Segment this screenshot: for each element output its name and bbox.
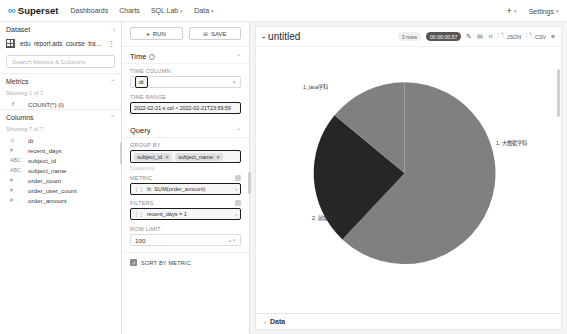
chevron-right-icon[interactable]: › <box>235 211 237 217</box>
group-by-tag-label: subject_id <box>137 154 162 160</box>
chevron-up-icon: ⌃ <box>110 78 115 85</box>
edit-properties-button[interactable]: ✎ <box>466 33 472 41</box>
nav-item-data[interactable]: Data ▾ <box>194 7 214 14</box>
row-limit-input[interactable]: 100 ▴ ▾ <box>130 234 241 246</box>
chevron-down-icon: ▾ <box>233 79 236 85</box>
columns-section-header[interactable]: Columns ⌃ <box>0 109 121 124</box>
group-by-tag-subject-id[interactable]: subject_id ✕ <box>134 153 172 161</box>
data-panel-collapsed[interactable]: › Data <box>256 313 561 329</box>
nav-item-data-label: Data <box>194 7 209 14</box>
new-item-button[interactable]: + ▾ <box>506 7 516 16</box>
chevron-down-icon: ▾ <box>514 8 517 14</box>
chart-title[interactable]: - untitled <box>262 31 300 42</box>
column-item[interactable]: ◷ dt <box>0 135 121 145</box>
envelope-icon: ✉ <box>477 33 483 41</box>
metric-label: METRIC <box>130 175 152 181</box>
column-item[interactable]: # order_amount <box>0 195 121 205</box>
column-type-icon: # <box>10 187 23 193</box>
filters-settings-icon[interactable] <box>235 200 241 206</box>
query-section-header[interactable]: Query ⌃ <box>122 121 249 138</box>
nav-item-dashboards[interactable]: Dashboards <box>71 7 109 14</box>
time-section-header[interactable]: Time i ⌃ <box>122 47 249 64</box>
sort-by-metric-row[interactable]: ✓ SORT BY METRIC <box>122 252 249 270</box>
filters-label: FILTERS <box>130 200 154 206</box>
drag-handle-icon[interactable]: ⋮⋮ <box>134 186 144 192</box>
metric-item[interactable]: f COUNT(*) (l) <box>0 99 121 109</box>
search-metrics-columns-input[interactable]: Search Metrics & Columns <box>6 55 115 68</box>
top-navbar: ∞ Superset Dashboards Charts SQL Lab ▾ D… <box>0 0 567 22</box>
column-name: subject_name <box>28 167 67 174</box>
drag-handle-icon[interactable]: ⋮⋮ <box>134 211 144 217</box>
pie-label-0: 1, 大数据学科 <box>496 139 527 146</box>
group-by-tag-label: subject_name <box>178 154 213 160</box>
chart-scrollbar[interactable] <box>557 69 560 117</box>
run-button-label: RUN <box>153 31 166 37</box>
sort-by-metric-label: SORT BY METRIC <box>141 260 191 266</box>
metric-label-row: METRIC <box>130 175 241 181</box>
column-item[interactable]: ABC subject_name <box>0 165 121 175</box>
chart-header: - untitled 3 rows 00:00:00.57 ✎ ✉ ‹› <box>256 27 561 47</box>
dataset-menu-icon[interactable]: ⋮ <box>108 41 115 47</box>
time-column-select[interactable]: dt ▾ <box>130 76 241 88</box>
time-title-text: Time <box>130 52 146 61</box>
save-button[interactable]: ⊞ SAVE <box>189 27 242 40</box>
metric-control[interactable]: ⋮⋮ fx SUM(order_amount) › <box>130 183 241 195</box>
dataset-selector[interactable]: edu_report.ads_course_trad... ⋮ <box>0 36 121 52</box>
nav-item-sql-lab[interactable]: SQL Lab ▾ <box>151 7 183 14</box>
embed-code-button[interactable]: ‹› <box>488 33 492 40</box>
more-menu-button[interactable]: ≡ <box>551 33 555 40</box>
column-item[interactable]: # order_count <box>0 175 121 185</box>
time-column-label: TIME COLUMN <box>130 68 241 74</box>
dataset-name: edu_report.ads_course_trad... <box>20 40 103 47</box>
download-csv-button[interactable]: 🗋 .CSV <box>526 31 546 42</box>
email-button[interactable]: ✉ <box>477 33 483 41</box>
dataset-panel-header: Dataset ⊣ <box>0 22 121 36</box>
column-type-icon: ABC <box>10 167 23 173</box>
row-limit-field: ROW LIMIT 100 ▴ ▾ <box>122 222 249 248</box>
column-type-icon: # <box>10 197 23 203</box>
nav-item-charts[interactable]: Charts <box>119 7 140 14</box>
table-icon <box>6 39 15 48</box>
filters-field: FILTERS ⋮⋮ recent_days = 1 › <box>122 197 249 222</box>
metrics-section-header[interactable]: Metrics ⌃ <box>0 73 121 88</box>
filters-control[interactable]: ⋮⋮ recent_days = 1 › <box>130 208 241 220</box>
close-icon[interactable]: ✕ <box>165 154 169 160</box>
play-icon: ▸ <box>147 31 150 37</box>
chevron-right-icon[interactable]: › <box>235 186 237 192</box>
metric-name: COUNT(*) (l) <box>28 101 64 108</box>
stepper-icons[interactable]: ▴ ▾ <box>229 238 236 243</box>
column-name: order_amount <box>28 197 67 204</box>
function-icon: fx <box>147 186 151 192</box>
data-panel-label: Data <box>270 318 285 325</box>
metric-settings-icon[interactable] <box>235 175 241 181</box>
column-item[interactable]: # order_user_count <box>0 185 121 195</box>
time-range-control[interactable]: 2022-02-21 ≤ col < 2022-02-21T23:59:59 <box>130 102 241 114</box>
query-section-title: Query <box>130 126 150 135</box>
plus-icon: + <box>506 7 511 16</box>
pie-label-1: 2, 前端学科 <box>312 214 338 221</box>
metrics-showing-count: Showing 1 of 1 <box>0 88 121 99</box>
collapse-panel-icon[interactable]: ⊣ <box>110 26 115 33</box>
chart-area: - untitled 3 rows 00:00:00.57 ✎ ✉ ‹› <box>250 22 567 334</box>
column-type-icon: ◷ <box>10 137 23 143</box>
download-json-button[interactable]: 🗋 .JSON <box>498 31 521 42</box>
close-icon[interactable]: ✕ <box>216 154 220 160</box>
chevron-down-icon: ▾ <box>556 8 559 14</box>
rows-badge: 3 rows <box>398 32 421 41</box>
column-item[interactable]: # recent_days <box>0 145 121 155</box>
time-section-title: Time i <box>130 52 155 61</box>
column-item[interactable]: ABC subject_id <box>0 155 121 165</box>
chart-header-actions: 3 rows 00:00:00.57 ✎ ✉ ‹› 🗋 <box>398 31 555 42</box>
settings-menu[interactable]: Settings ▾ <box>529 8 559 15</box>
group-by-tag-subject-name[interactable]: subject_name ✕ <box>175 153 223 161</box>
info-icon[interactable]: i <box>149 54 155 60</box>
control-panel-resize-handle[interactable] <box>248 172 251 194</box>
nav-item-dashboards-label: Dashboards <box>71 7 109 14</box>
column-name: order_count <box>28 177 61 184</box>
superset-logo[interactable]: ∞ Superset <box>8 5 59 16</box>
checkbox-checked-icon[interactable]: ✓ <box>130 259 137 266</box>
infinity-logo-icon: ∞ <box>8 5 15 16</box>
run-button[interactable]: ▸ RUN <box>130 27 183 40</box>
group-by-control[interactable]: subject_id ✕ subject_name ✕ <box>130 150 241 163</box>
save-icon: ⊞ <box>203 31 208 37</box>
